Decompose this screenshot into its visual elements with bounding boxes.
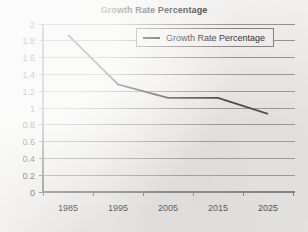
x-tick-label: 2015 — [208, 203, 228, 213]
x-tick-marks — [43, 192, 293, 196]
y-tick-label: 0 — [30, 188, 35, 198]
legend-label: Growth Rate Percentage — [166, 33, 265, 43]
y-axis-labels: 2 1.8 1.6 1.4 1.2 1 0.8 0.6 0.4 0.2 0 — [22, 20, 35, 198]
chart-legend: Growth Rate Percentage — [136, 28, 274, 47]
y-tick-label: 2 — [30, 20, 35, 30]
legend-line-swatch-icon — [143, 37, 160, 39]
x-tick-label: 2025 — [258, 203, 278, 213]
x-tick-label: 2005 — [158, 203, 178, 213]
y-tick-label: 1.4 — [22, 70, 35, 80]
y-tick-label: 0.4 — [22, 154, 35, 164]
x-tick-label: 1985 — [58, 203, 78, 213]
y-tick-label: 1.6 — [22, 53, 35, 63]
y-tick-label: 1.2 — [22, 87, 35, 97]
y-tick-label: 0.6 — [22, 137, 35, 147]
y-tick-label: 1.8 — [22, 36, 35, 46]
y-tick-label: 0.2 — [22, 171, 35, 181]
y-tick-label: 1 — [30, 104, 35, 114]
y-tick-label: 0.8 — [22, 120, 35, 130]
x-axis-labels: 1985 1995 2005 2015 2025 — [58, 203, 278, 213]
line-chart: Growth Rate Percentage — [0, 0, 308, 232]
x-tick-label: 1995 — [108, 203, 128, 213]
